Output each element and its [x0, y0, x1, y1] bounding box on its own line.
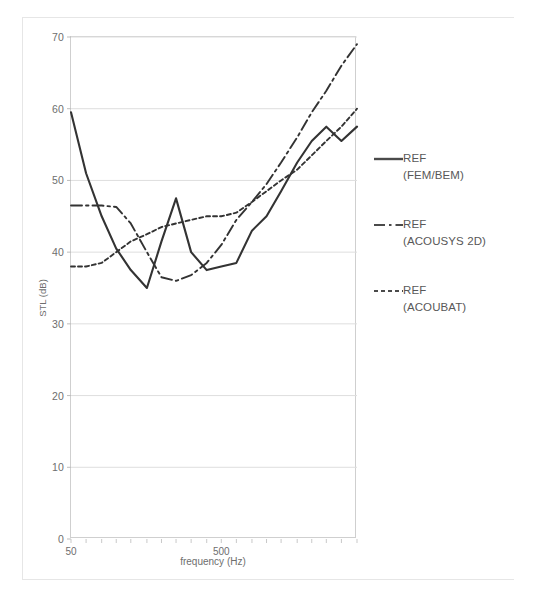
legend-label: REF: [403, 150, 426, 167]
plot-canvas: [71, 37, 357, 539]
legend-sublabel: (ACOUBAT): [403, 299, 524, 316]
chart-legend: REF(FEM/BEM)REF(ACOUSYS 2D)REF(ACOUBAT): [374, 150, 524, 348]
y-axis-tick-label: 10: [52, 461, 64, 473]
y-axis-tick-label: 20: [52, 390, 64, 402]
legend-line-swatch: [374, 153, 403, 165]
legend-item[interactable]: REF(FEM/BEM): [374, 150, 524, 184]
y-axis-label: STL (dB): [37, 279, 48, 317]
y-axis-tick-label: 0: [58, 533, 64, 545]
legend-item[interactable]: REF(ACOUBAT): [374, 282, 524, 316]
y-axis-tick-label: 70: [52, 31, 64, 43]
legend-item[interactable]: REF(ACOUSYS 2D): [374, 216, 524, 250]
chart-page: STL (dB) 01020304050607050500 frequency …: [0, 0, 537, 596]
y-axis-tick-label: 30: [52, 318, 64, 330]
y-axis-tick-label: 60: [52, 103, 64, 115]
series-line: [71, 112, 357, 288]
legend-sublabel: (ACOUSYS 2D): [403, 233, 524, 250]
legend-label: REF: [403, 216, 426, 233]
stl-frequency-chart: STL (dB) 01020304050607050500 frequency …: [0, 0, 537, 596]
legend-line-swatch: [374, 219, 403, 231]
y-axis-tick-label: 50: [52, 174, 64, 186]
plot-area: 01020304050607050500: [70, 36, 356, 538]
legend-label: REF: [403, 282, 426, 299]
x-axis-label: frequency (Hz): [70, 556, 356, 567]
legend-sublabel: (FEM/BEM): [403, 167, 524, 184]
y-axis-tick-label: 40: [52, 246, 64, 258]
legend-line-swatch: [374, 285, 403, 297]
